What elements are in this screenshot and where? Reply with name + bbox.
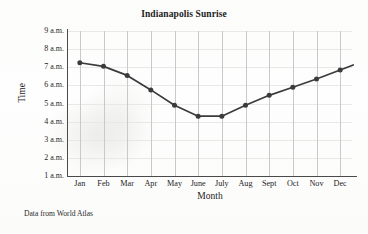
source-note: Data from World Atlas bbox=[24, 209, 93, 218]
data-point-marker bbox=[243, 103, 248, 108]
data-point-marker bbox=[219, 114, 224, 119]
data-point-marker bbox=[77, 60, 82, 65]
data-point-marker bbox=[196, 114, 201, 119]
data-point-marker bbox=[125, 73, 130, 78]
data-point-marker bbox=[101, 64, 106, 69]
data-point-marker bbox=[338, 67, 343, 72]
sunrise-series-markers bbox=[77, 60, 342, 118]
data-point-marker bbox=[267, 93, 272, 98]
sunrise-line-chart-figure: Indianapolis Sunrise 9 a.m.8 a.m.7 a.m.6… bbox=[0, 0, 368, 234]
data-point-marker bbox=[172, 103, 177, 108]
data-point-marker bbox=[290, 85, 295, 90]
sunrise-series-line bbox=[80, 63, 353, 116]
data-point-marker bbox=[314, 77, 319, 82]
data-point-marker bbox=[148, 87, 153, 92]
series-layer bbox=[0, 0, 368, 234]
